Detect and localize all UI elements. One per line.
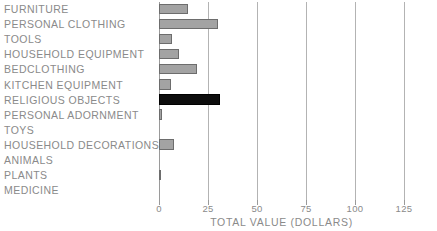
bar — [159, 94, 220, 105]
x-tick-label: 75 — [300, 203, 311, 214]
bar — [159, 4, 188, 15]
category-label: PLANTS — [4, 168, 48, 182]
bar-chart: FURNITUREPERSONAL CLOTHINGTOOLSHOUSEHOLD… — [0, 0, 437, 231]
category-label: HOUSEHOLD DECORATIONS — [4, 138, 159, 152]
x-tick-label: 125 — [396, 203, 413, 214]
category-label: HOUSEHOLD EQUIPMENT — [4, 47, 144, 61]
category-label: MEDICINE — [4, 183, 59, 197]
category-label: TOOLS — [4, 32, 42, 46]
chart-row: TOOLS — [0, 32, 437, 47]
x-axis-title: TOTAL VALUE (DOLLARS) — [159, 216, 404, 228]
chart-row: BEDCLOTHING — [0, 62, 437, 77]
bar — [159, 49, 179, 60]
category-label: FURNITURE — [4, 2, 69, 16]
bar — [159, 109, 162, 120]
category-label: TOYS — [4, 123, 34, 137]
chart-row: RELIGIOUS OBJECTS — [0, 93, 437, 108]
category-label: KITCHEN EQUIPMENT — [4, 78, 123, 92]
bar — [159, 79, 171, 90]
category-label: PERSONAL CLOTHING — [4, 17, 126, 31]
category-label: RELIGIOUS OBJECTS — [4, 93, 120, 107]
chart-row: FURNITURE — [0, 2, 437, 17]
x-tick-label: 0 — [156, 203, 162, 214]
chart-row: TOYS — [0, 123, 437, 138]
bar — [159, 19, 218, 30]
x-tick-label: 25 — [202, 203, 213, 214]
category-label: BEDCLOTHING — [4, 62, 85, 76]
category-label: PERSONAL ADORNMENT — [4, 108, 139, 122]
chart-row: HOUSEHOLD EQUIPMENT — [0, 47, 437, 62]
chart-row: KITCHEN EQUIPMENT — [0, 78, 437, 93]
bar — [159, 139, 174, 150]
x-tick-label: 100 — [347, 203, 364, 214]
chart-row: PLANTS — [0, 168, 437, 183]
chart-row: PERSONAL CLOTHING — [0, 17, 437, 32]
category-label: ANIMALS — [4, 153, 53, 167]
bar — [159, 170, 161, 181]
bar — [159, 64, 197, 75]
chart-row: PERSONAL ADORNMENT — [0, 108, 437, 123]
chart-row: MEDICINE — [0, 183, 437, 198]
chart-row: HOUSEHOLD DECORATIONS — [0, 138, 437, 153]
bar — [159, 34, 172, 45]
chart-row: ANIMALS — [0, 153, 437, 168]
x-tick-label: 50 — [251, 203, 262, 214]
